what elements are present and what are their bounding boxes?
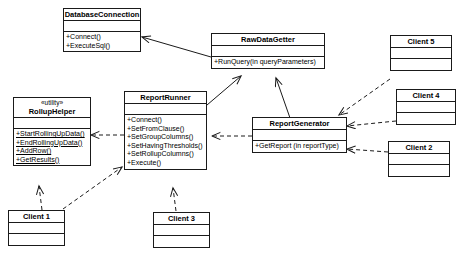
edge-client1-to-reportrunner: [63, 167, 122, 209]
class-attributes-compartment: [125, 104, 206, 115]
class-title: DatabaseConnection: [65, 10, 140, 19]
edge-client3-to-reportrunner: [173, 188, 176, 211]
class-attributes-compartment: [154, 225, 209, 236]
class-client-1[interactable]: Client 1: [8, 210, 65, 246]
operation-item: +Connect(): [66, 33, 140, 42]
class-attributes-compartment: [391, 48, 451, 59]
operation-item: +GetReport (in reportType): [255, 142, 346, 151]
uml-class-diagram-canvas: DatabaseConnection +Connect() +ExecuteSq…: [0, 0, 457, 266]
class-name-compartment: Client 5: [391, 36, 451, 48]
class-name-compartment: Client 2: [389, 142, 449, 154]
edge-client2-to-reportgenerator: [347, 149, 388, 152]
class-operations-compartment: +Connect() +ExecuteSql(): [64, 32, 140, 51]
edge-rawdatagetter-to-databaseconnection: [142, 37, 211, 57]
class-attributes-compartment: [389, 154, 449, 165]
class-attributes-compartment: [212, 46, 324, 57]
class-title: Client 2: [405, 143, 432, 152]
class-attributes-compartment: [64, 21, 140, 32]
class-title: RawDataGetter: [241, 35, 295, 44]
class-database-connection[interactable]: DatabaseConnection +Connect() +ExecuteSq…: [63, 8, 141, 52]
class-report-runner[interactable]: ReportRunner +Connect() +SetFromClause()…: [124, 91, 207, 170]
class-name-compartment: ReportRunner: [125, 92, 206, 104]
class-title: Client 1: [23, 212, 50, 221]
class-operations-compartment: [389, 165, 449, 176]
class-attributes-compartment: [9, 223, 64, 234]
operation-item: +SetRollupColumns(): [127, 150, 206, 159]
class-operations-compartment: [9, 234, 64, 245]
class-name-compartment: Client 4: [397, 90, 455, 102]
operation-item: +StartRollingUpData(): [16, 130, 90, 139]
class-operations-compartment: [397, 113, 455, 124]
class-operations-compartment: +Connect() +SetFromClause() +SetGroupCol…: [125, 115, 206, 169]
class-attributes-compartment: [397, 102, 455, 113]
class-attributes-compartment: [253, 130, 346, 141]
class-name-compartment: Client 3: [154, 213, 209, 225]
class-operations-compartment: +GetReport (in reportType): [253, 141, 346, 152]
class-title: RollupHelper: [29, 107, 76, 116]
class-name-compartment: «utility» RollupHelper: [14, 98, 90, 118]
class-name-compartment: ReportGenerator: [253, 118, 346, 130]
operation-item: +GetResults(): [16, 156, 90, 165]
class-stereotype: «utility»: [41, 99, 63, 107]
class-rollup-helper[interactable]: «utility» RollupHelper +StartRollingUpDa…: [13, 97, 91, 166]
edge-client4-to-reportgenerator: [347, 121, 396, 126]
class-title: Client 5: [407, 37, 434, 46]
operation-item: +SetGroupColumns(): [127, 133, 206, 142]
edge-reportgenerator-to-rawdatagetter: [276, 78, 290, 118]
class-title: ReportRunner: [140, 93, 190, 102]
class-operations-compartment: [154, 236, 209, 247]
class-name-compartment: DatabaseConnection: [64, 9, 140, 21]
operation-item: +SetHavingThresholds(): [127, 142, 206, 151]
class-title: ReportGenerator: [269, 119, 329, 128]
operation-item: +AddRow(): [16, 147, 90, 156]
operation-item: +RunQuery(in queryParameters): [214, 58, 324, 67]
class-name-compartment: Client 1: [9, 211, 64, 223]
edge-client5-to-reportgenerator: [339, 79, 390, 115]
class-report-generator[interactable]: ReportGenerator +GetReport (in reportTyp…: [252, 117, 347, 153]
edge-reportrunner-to-rawdatagetter: [207, 76, 241, 105]
edge-client1-to-rolluphelper: [39, 186, 42, 210]
operation-item: +Connect(): [127, 116, 206, 125]
class-raw-data-getter[interactable]: RawDataGetter +RunQuery(in queryParamete…: [211, 33, 325, 69]
class-operations-compartment: +RunQuery(in queryParameters): [212, 57, 324, 68]
class-operations-compartment: +StartRollingUpData() +EndRollingUpData(…: [14, 129, 90, 165]
class-client-2[interactable]: Client 2: [388, 141, 450, 177]
operation-item: +Execute(): [127, 159, 206, 168]
operation-item: +EndRollingUpData(): [16, 139, 90, 148]
class-client-4[interactable]: Client 4: [396, 89, 456, 125]
class-title: Client 4: [412, 91, 439, 100]
operation-item: +ExecuteSql(): [66, 42, 140, 51]
class-operations-compartment: [391, 59, 451, 70]
class-name-compartment: RawDataGetter: [212, 34, 324, 46]
class-attributes-compartment: [14, 118, 90, 129]
class-client-3[interactable]: Client 3: [153, 212, 210, 248]
class-title: Client 3: [168, 214, 195, 223]
class-client-5[interactable]: Client 5: [390, 35, 452, 71]
operation-item: +SetFromClause(): [127, 125, 206, 134]
